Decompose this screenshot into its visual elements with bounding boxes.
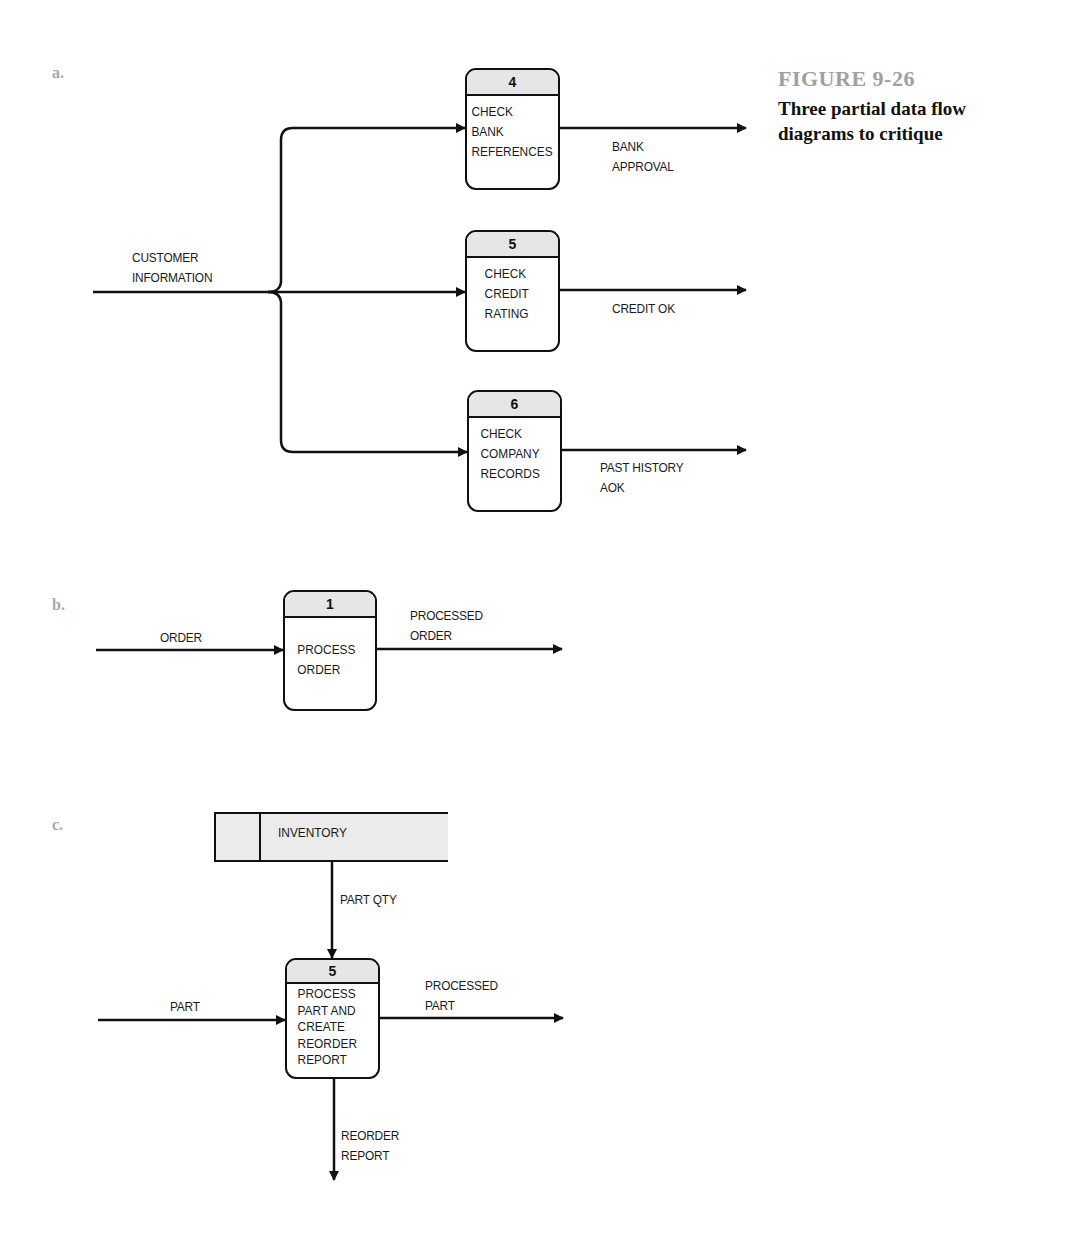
process-id: 6 (469, 392, 560, 418)
part-qty-flow-label: PART QTY (340, 890, 397, 910)
reorder-report-flow-label: REORDER REPORT (341, 1126, 399, 1166)
process-6-check-company-records: 6 CHECK COMPANY RECORDS (467, 390, 562, 512)
diagram-a-label: a. (52, 64, 64, 82)
process-id: 5 (467, 232, 558, 258)
diagram-c-label: c. (52, 816, 63, 834)
process-5-check-credit-rating: 5 CHECK CREDIT RATING (465, 230, 560, 352)
process-id: 4 (467, 70, 558, 96)
part-flow-label: PART (170, 997, 200, 1017)
process-name: PROCESS ORDER (285, 618, 364, 680)
data-store-inventory: INVENTORY (214, 812, 448, 862)
past-history-aok-flow-label: PAST HISTORY AOK (600, 458, 684, 498)
processed-part-flow-label: PROCESSED PART (425, 976, 498, 1016)
bank-approval-flow-label: BANK APPROVAL (612, 137, 674, 177)
process-1-process-order: 1 PROCESS ORDER (283, 590, 377, 711)
process-name: PROCESS PART AND CREATE REORDER REPORT (287, 984, 367, 1069)
process-5-process-part-and-create-reorder-report: 5 PROCESS PART AND CREATE REORDER REPORT (285, 958, 380, 1079)
processed-order-flow-label: PROCESSED ORDER (410, 606, 483, 646)
credit-ok-flow-label: CREDIT OK (612, 299, 675, 319)
order-flow-label: ORDER (160, 628, 202, 648)
figure-caption: Three partial data flow diagrams to crit… (778, 96, 966, 146)
customer-information-flow-label: CUSTOMER INFORMATION (132, 248, 212, 288)
process-4-check-bank-references: 4 CHECK BANK REFERENCES (465, 68, 560, 190)
figure-number: FIGURE 9-26 (778, 66, 915, 92)
process-name: CHECK COMPANY RECORDS (469, 418, 549, 484)
diagram-b-label: b. (52, 596, 65, 614)
process-id: 5 (287, 960, 378, 984)
process-name: CHECK CREDIT RATING (467, 258, 547, 324)
data-store-id-cell (216, 814, 261, 860)
data-store-name: INVENTORY (278, 825, 347, 840)
process-id: 1 (285, 592, 375, 618)
process-name: CHECK BANK REFERENCES (467, 96, 547, 162)
